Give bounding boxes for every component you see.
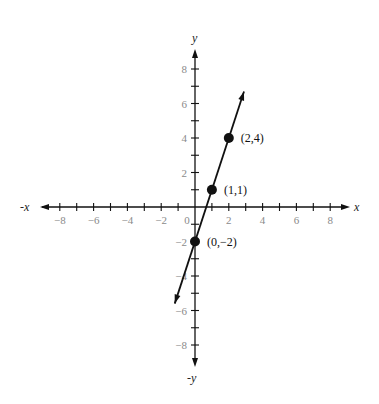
y-axis-up-arrow-icon bbox=[192, 49, 198, 58]
x-tick-label: −8 bbox=[54, 214, 66, 226]
x-tick-label: 4 bbox=[260, 214, 266, 226]
y-axis-label: y bbox=[191, 31, 198, 45]
y-axis-down-arrow-icon bbox=[192, 358, 198, 367]
x-tick-label: −4 bbox=[122, 214, 134, 226]
y-tick-label: 2 bbox=[182, 167, 188, 179]
axes bbox=[40, 49, 350, 367]
x-tick-label: 6 bbox=[294, 214, 300, 226]
x-tick-label: −6 bbox=[88, 214, 100, 226]
line-y-3x-minus-2 bbox=[175, 91, 244, 303]
y-tick-label: −8 bbox=[175, 339, 187, 351]
x-neg-axis-label: -x bbox=[20, 200, 30, 214]
line-start-arrow-icon bbox=[175, 294, 181, 303]
x-tick-label: 2 bbox=[226, 214, 232, 226]
y-tick-label: 8 bbox=[182, 63, 188, 75]
plotted-points: (2,4)(1,1)(0,−2) bbox=[190, 131, 264, 249]
y-tick-label: 6 bbox=[182, 98, 188, 110]
origin-label: 0 bbox=[184, 214, 190, 226]
x-axis-left-arrow-icon bbox=[40, 204, 49, 210]
data-point bbox=[224, 133, 234, 143]
x-axis-right-arrow-icon bbox=[341, 204, 350, 210]
plotted-line bbox=[175, 91, 244, 303]
point-label: (1,1) bbox=[224, 183, 247, 197]
data-point bbox=[207, 185, 217, 195]
x-tick-label: −2 bbox=[155, 214, 167, 226]
point-label: (2,4) bbox=[241, 131, 264, 145]
y-tick-label: −6 bbox=[175, 305, 187, 317]
y-tick-label: 4 bbox=[182, 132, 188, 144]
tick-labels: -xxy-y−8−6−4−22468−8−6−42468−20 bbox=[20, 31, 360, 385]
y-neg-axis-label: -y bbox=[187, 371, 197, 385]
x-axis-label: x bbox=[353, 200, 360, 214]
line-end-arrow-icon bbox=[238, 91, 244, 100]
point-label: (0,−2) bbox=[207, 235, 237, 249]
y-tick-label: −2 bbox=[175, 236, 187, 248]
coordinate-plane: -xxy-y−8−6−4−22468−8−6−42468−20 (2,4)(1,… bbox=[0, 0, 379, 404]
x-tick-label: 8 bbox=[327, 214, 333, 226]
data-point bbox=[190, 237, 200, 247]
